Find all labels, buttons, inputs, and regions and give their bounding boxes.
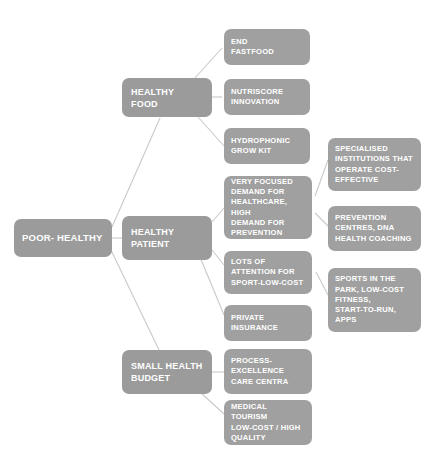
node-nutriscore-innovation[interactable]: NUTRISCORE INNOVATION (224, 79, 310, 115)
edge-shb-to-medical-tourism (200, 392, 224, 414)
node-sports-in-the-park[interactable]: SPORTS IN THE PARK, LOW-COST FITNESS, ST… (328, 268, 421, 332)
edge-root-to-small-health-budget (110, 248, 160, 352)
node-healthy-patient-label: HEALTHY PATIENT (131, 226, 203, 250)
node-lots-of-attention[interactable]: LOTS OF ATTENTION FOR SPORT-LOW-COST (224, 251, 312, 294)
edge-hf-to-hydrophonic (198, 117, 224, 146)
edge-hp-to-lots-of-attention (212, 250, 224, 265)
node-process-excellence-care-centra-label: PROCESS- EXCELLENCE CARE CENTRA (231, 356, 305, 387)
edge-vf-to-specialised (315, 160, 328, 196)
node-small-health-budget[interactable]: SMALL HEALTH BUDGET (122, 350, 212, 394)
node-medical-tourism[interactable]: MEDICAL TOURISM LOW-COST / HIGH QUALITY (224, 400, 312, 445)
node-end-fastfood[interactable]: END FASTFOOD (224, 29, 310, 65)
node-hydrophonic-grow-kit-label: HYDROPHONIC GROW KIT (231, 136, 303, 156)
node-root[interactable]: POOR- HEALTHY (14, 219, 112, 257)
node-healthy-food[interactable]: HEALTHY FOOD (122, 78, 212, 117)
node-hydrophonic-grow-kit[interactable]: HYDROPHONIC GROW KIT (224, 128, 310, 164)
node-specialised-institutions-label: SPECIALISED INSTITUTIONS THAT OPERATE CO… (335, 144, 414, 185)
node-prevention-centres[interactable]: PREVENTION CENTRES, DNA HEALTH COACHING (328, 206, 421, 251)
node-very-focused-demand-label: VERY FOCUSED DEMAND FOR HEALTHCARE, HIGH… (231, 177, 305, 238)
edge-vf-to-prevention (315, 213, 328, 226)
node-healthy-food-label: HEALTHY FOOD (131, 86, 203, 110)
node-private-insurance-label: PRIVATE INSURANCE (231, 313, 305, 333)
node-small-health-budget-label: SMALL HEALTH BUDGET (131, 360, 203, 384)
edge-root-to-healthy-food (112, 118, 160, 227)
node-sports-in-the-park-label: SPORTS IN THE PARK, LOW-COST FITNESS, ST… (335, 274, 414, 325)
node-lots-of-attention-label: LOTS OF ATTENTION FOR SPORT-LOW-COST (231, 257, 305, 288)
edge-hp-to-very-focused (212, 208, 224, 222)
node-process-excellence-care-centra[interactable]: PROCESS- EXCELLENCE CARE CENTRA (224, 349, 312, 394)
edge-hf-to-end-fastfood (195, 48, 222, 78)
mindmap-canvas: POOR- HEALTHY HEALTHY FOOD HEALTHY PATIE… (0, 0, 431, 463)
node-prevention-centres-label: PREVENTION CENTRES, DNA HEALTH COACHING (335, 213, 414, 244)
node-end-fastfood-label: END FASTFOOD (231, 37, 303, 57)
node-healthy-patient[interactable]: HEALTHY PATIENT (122, 216, 212, 260)
node-nutriscore-innovation-label: NUTRISCORE INNOVATION (231, 87, 303, 107)
node-root-label: POOR- HEALTHY (22, 232, 104, 244)
edge-loa-to-sports (316, 272, 328, 295)
node-medical-tourism-label: MEDICAL TOURISM LOW-COST / HIGH QUALITY (231, 402, 305, 443)
node-very-focused-demand[interactable]: VERY FOCUSED DEMAND FOR HEALTHCARE, HIGH… (224, 176, 312, 239)
node-specialised-institutions[interactable]: SPECIALISED INSTITUTIONS THAT OPERATE CO… (328, 138, 421, 191)
node-private-insurance[interactable]: PRIVATE INSURANCE (224, 305, 312, 341)
edge-hp-to-private-insurance (200, 257, 224, 315)
